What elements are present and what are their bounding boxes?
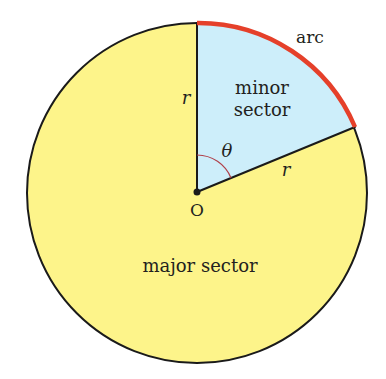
circle-sector-diagram: O r r θ minor sector major sector arc: [0, 0, 386, 379]
major-sector-label: major sector: [142, 255, 258, 276]
arc-label: arc: [296, 27, 324, 47]
radius-label-slant: r: [282, 159, 292, 180]
radius-label-vertical: r: [182, 87, 192, 108]
angle-label: θ: [222, 140, 233, 161]
minor-sector-label-line1: minor: [235, 77, 289, 98]
center-point: [194, 189, 201, 196]
center-label: O: [190, 200, 204, 220]
minor-sector-label-line2: sector: [234, 99, 291, 120]
